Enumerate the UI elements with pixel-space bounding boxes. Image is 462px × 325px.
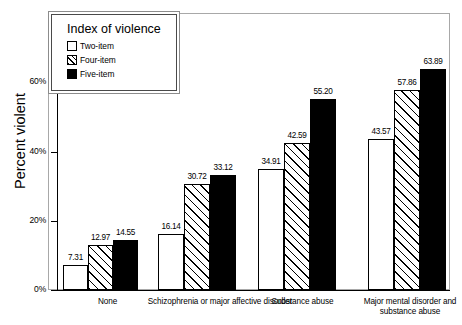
bar-value-label: 33.12 xyxy=(204,164,242,172)
bar-four-item-4 xyxy=(394,90,420,290)
bar-value-label: 63.89 xyxy=(414,58,452,66)
legend-label-two-item: Two-item xyxy=(80,41,114,51)
bar-value-label: 14.55 xyxy=(107,229,144,237)
bar-four-item-1 xyxy=(88,245,113,290)
bar-two-item-1 xyxy=(63,265,88,290)
legend: Index of violence Two-item Four-item Fiv… xyxy=(48,11,180,94)
bar-two-item-4 xyxy=(368,139,394,290)
legend-label-four-item: Four-item xyxy=(80,55,116,65)
legend-item-five-item: Five-item xyxy=(67,69,179,79)
bar-five-item-1 xyxy=(113,240,138,290)
legend-item-two-item: Two-item xyxy=(67,41,179,51)
bar-five-item-4 xyxy=(420,69,446,290)
bar-five-item-2 xyxy=(210,175,236,290)
legend-item-four-item: Four-item xyxy=(67,55,179,65)
legend-label-five-item: Five-item xyxy=(80,69,114,79)
bar-four-item-3 xyxy=(284,143,310,290)
bar-four-item-2 xyxy=(184,184,210,290)
category-label-4: Major mental disorder and substance abus… xyxy=(345,297,462,317)
bar-two-item-3 xyxy=(258,169,284,290)
legend-swatch-two-item xyxy=(67,41,77,51)
bar-two-item-2 xyxy=(158,234,184,290)
legend-swatch-four-item xyxy=(67,55,77,65)
bar-five-item-3 xyxy=(310,99,336,290)
legend-title: Index of violence xyxy=(67,22,179,36)
legend-swatch-five-item xyxy=(67,69,77,79)
bar-value-label: 55.20 xyxy=(304,88,342,96)
